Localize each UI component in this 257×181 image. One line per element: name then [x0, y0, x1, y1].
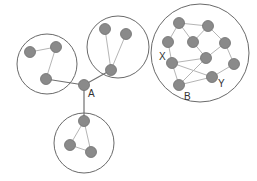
graph-canvas: [0, 0, 257, 181]
community-circle-top: [87, 16, 149, 78]
node-c: [201, 53, 212, 64]
node-b2: [65, 140, 76, 151]
node-l3: [41, 74, 52, 85]
node-r4: [188, 37, 199, 48]
node-b3: [86, 147, 97, 158]
node-t2: [121, 29, 132, 40]
edge: [105, 29, 111, 70]
node-t3: [106, 65, 117, 76]
node-b: [174, 80, 185, 91]
node-r5: [220, 38, 231, 49]
node-label-x: X: [159, 52, 166, 62]
node-x: [167, 58, 178, 69]
node-label-b: B: [184, 92, 191, 102]
node-y: [207, 72, 218, 83]
node-r2: [203, 21, 214, 32]
network-diagram: A X B Y: [0, 0, 257, 181]
node-b1: [79, 116, 90, 127]
edge: [172, 63, 212, 77]
node-t1: [100, 24, 111, 35]
node-l1: [25, 47, 36, 58]
community-circle-left: [17, 34, 77, 94]
node-label-y: Y: [218, 79, 225, 89]
node-l2: [51, 42, 62, 53]
node-r7: [229, 59, 240, 70]
node-r1: [174, 18, 185, 29]
node-r3: [163, 37, 174, 48]
node-label-a: A: [88, 89, 95, 99]
